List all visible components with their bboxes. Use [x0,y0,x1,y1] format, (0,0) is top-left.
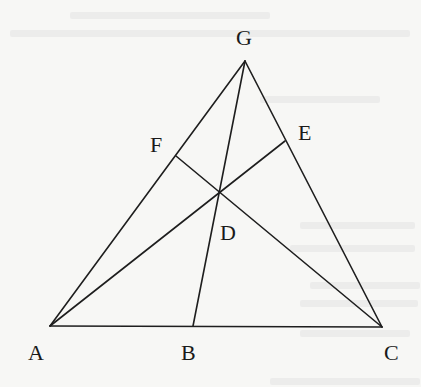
label-F: F [150,132,162,157]
triangle-figure: G F E D A B C [0,0,421,387]
segment-AE [50,141,285,326]
label-D: D [220,220,236,245]
segment-GC [245,61,382,327]
label-C: C [384,340,399,365]
label-G: G [236,25,252,50]
label-A: A [28,340,44,365]
segment-CF [176,156,382,327]
label-E: E [298,120,311,145]
diagram-canvas: G F E D A B C [0,0,421,387]
segment-AG [50,61,245,326]
segment-AC [50,326,382,327]
label-B: B [181,340,196,365]
